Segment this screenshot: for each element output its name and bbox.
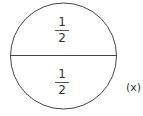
- bottom-denominator: 2: [47, 84, 77, 97]
- top-numerator: 1: [47, 16, 77, 29]
- option-label: (x): [126, 81, 141, 94]
- bottom-numerator: 1: [47, 68, 77, 81]
- bottom-half-fraction: 1 2: [47, 68, 77, 97]
- top-denominator: 2: [47, 32, 77, 45]
- top-half-fraction: 1 2: [47, 16, 77, 45]
